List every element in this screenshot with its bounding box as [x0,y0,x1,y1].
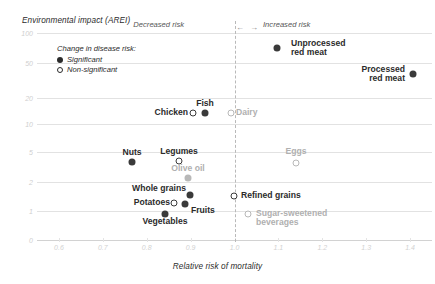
x-tick-label: 1.1 [274,244,284,251]
data-point-label: Fruits [191,206,215,215]
data-point-label: Unprocessed red meat [291,39,345,58]
x-tick-label: 1.4 [405,244,415,251]
legend-title: Change in disease risk: [57,44,136,54]
y-tick-label: 50 [25,60,33,67]
data-point-label: Olive oil [171,164,204,173]
data-point[interactable] [185,175,192,182]
y-tick-label: 20 [25,95,33,102]
legend-entry: Significant [57,55,136,65]
x-tick-mark [147,238,148,242]
reference-line [235,21,236,242]
data-point[interactable] [202,110,209,117]
y-axis-title: Environmental impact (AREI) [22,16,130,25]
y-tick-label: 5 [29,149,33,156]
x-tick-mark [278,238,279,242]
data-point-label: Whole grains [132,184,186,193]
data-point[interactable] [274,45,281,52]
y-tick-label: 2 [29,179,33,186]
increased-risk-annotation: Increased risk [263,20,310,29]
open-circle-icon [57,67,63,73]
x-tick-mark [366,238,367,242]
x-tick-label: 0.8 [142,244,152,251]
x-tick-mark [59,238,60,242]
data-point-label: Potatoes [134,198,170,207]
data-point[interactable] [129,159,136,166]
data-point-label: Nuts [122,148,141,157]
legend-entry-label: Non-significant [67,65,117,75]
data-point-label: Vegetables [143,217,188,226]
data-point-label: Processed red meat [362,65,405,84]
chart-container: Environmental impact (AREI) Relative ris… [0,0,435,284]
data-point[interactable] [410,71,417,78]
x-tick-label: 1.0 [230,244,240,251]
data-point-label: Fish [196,99,214,108]
x-axis-title: Relative risk of mortality [0,262,435,271]
x-tick-mark [410,238,411,242]
data-point-label: Eggs [285,147,306,156]
x-tick-label: 0.6 [54,244,64,251]
data-point-label: Chicken [155,108,188,117]
x-tick-mark [103,238,104,242]
x-tick-label: 0.9 [186,244,196,251]
data-point[interactable] [245,211,252,218]
legend-entry-label: Significant [67,55,102,65]
decreased-risk-annotation: Decreased risk [133,20,184,29]
data-point[interactable] [187,192,194,199]
legend-entry: Non-significant [57,65,136,75]
y-tick-label: 1 [29,208,33,215]
data-point[interactable] [190,110,197,117]
data-point[interactable] [182,201,189,208]
data-point[interactable] [171,200,178,207]
y-tick-label: 100 [21,30,33,37]
legend: Change in disease risk: SignificantNon-s… [57,44,136,75]
y-tick-label: 10 [25,121,33,128]
data-point-label: Sugar-sweetened beverages [256,209,327,228]
data-point-label: Legumes [160,147,198,156]
x-tick-label: 1.3 [361,244,371,251]
data-point-label: Dairy [236,108,258,117]
legend-entries: SignificantNon-significant [57,55,136,75]
y-tick-label: 0 [29,237,33,244]
x-tick-label: 1.2 [317,244,327,251]
data-point[interactable] [228,110,235,117]
data-point[interactable] [231,193,238,200]
x-tick-mark [191,238,192,242]
data-point-label: Refined grains [241,191,301,200]
x-tick-mark [322,238,323,242]
filled-circle-icon [57,57,63,63]
data-point[interactable] [293,160,300,167]
x-tick-label: 0.7 [98,244,108,251]
